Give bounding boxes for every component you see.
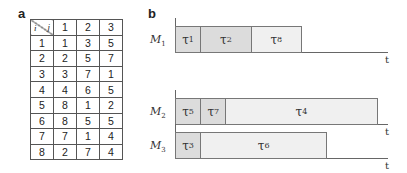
task-bar: τ6: [200, 132, 327, 159]
time-axis-label: t: [385, 160, 389, 171]
task-bar: τ4: [225, 98, 377, 125]
machine-label: M1: [150, 33, 166, 48]
time-axis-label: t: [385, 54, 389, 65]
task-bar: τ3: [175, 132, 201, 159]
machine-label: M2: [150, 105, 166, 120]
task-bar: τ7: [200, 98, 226, 125]
time-axis-label: t: [385, 126, 389, 137]
task-bar: τ8: [251, 26, 302, 53]
task-bar: τ2: [200, 26, 251, 53]
machine-label: M3: [150, 139, 166, 154]
task-bar: τ5: [175, 98, 201, 125]
task-bar: τ1: [175, 26, 201, 53]
gantt-chart: tM1τ1τ2τ8tM2τ5τ7τ4tM3τ3τ6: [0, 0, 407, 173]
